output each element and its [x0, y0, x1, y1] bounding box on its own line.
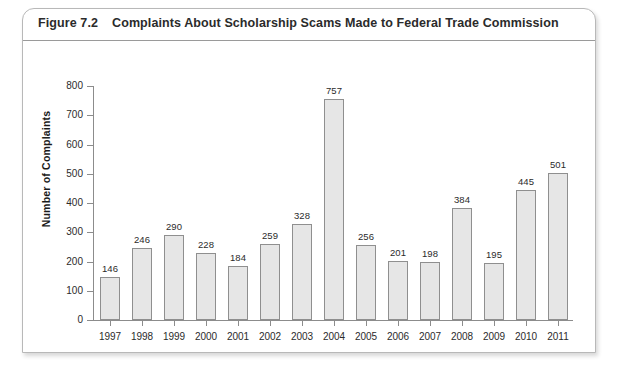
- bar-value-label: 246: [126, 234, 158, 245]
- bar: [356, 245, 376, 320]
- x-axis-tick: [366, 321, 367, 326]
- figure-frame: Figure 7.2Complaints About Scholarship S…: [22, 8, 596, 353]
- y-axis-title: Number of Complaints: [40, 99, 52, 239]
- figure-title: Complaints About Scholarship Scams Made …: [112, 16, 559, 30]
- bar-value-label: 757: [318, 85, 350, 96]
- x-axis-tick: [334, 321, 335, 326]
- y-axis-tick-label: 600: [53, 139, 83, 150]
- y-axis-tick: [87, 115, 93, 116]
- bar-value-label: 290: [158, 221, 190, 232]
- x-axis-line: [93, 320, 573, 321]
- x-axis-tick-label: 2008: [445, 331, 479, 342]
- x-axis-tick: [558, 321, 559, 326]
- x-axis-tick-label: 2002: [253, 331, 287, 342]
- y-axis-tick-label: 100: [53, 285, 83, 296]
- y-axis-tick: [87, 262, 93, 263]
- y-axis-tick: [87, 320, 93, 321]
- bar: [548, 173, 568, 320]
- y-axis-tick: [87, 232, 93, 233]
- x-axis-tick-label: 2010: [509, 331, 543, 342]
- x-axis-tick-label: 2003: [285, 331, 319, 342]
- bar: [420, 262, 440, 320]
- bar: [196, 253, 216, 320]
- figure-number: Figure 7.2: [38, 16, 98, 30]
- bar-value-label: 384: [446, 194, 478, 205]
- y-axis-tick-label: 200: [53, 256, 83, 267]
- x-axis-tick-label: 1998: [125, 331, 159, 342]
- bar-value-label: 195: [478, 249, 510, 260]
- bar: [132, 248, 152, 320]
- x-axis-tick: [206, 321, 207, 326]
- bar: [292, 224, 312, 320]
- bar: [484, 263, 504, 320]
- bar-chart-plot: Number of Complaints 0100200300400500600…: [23, 41, 595, 353]
- x-axis-tick: [238, 321, 239, 326]
- x-axis-tick-label: 2007: [413, 331, 447, 342]
- x-axis-tick-label: 2001: [221, 331, 255, 342]
- y-axis-tick-label: 500: [53, 168, 83, 179]
- y-axis-tick: [87, 174, 93, 175]
- figure-header: Figure 7.2Complaints About Scholarship S…: [23, 9, 595, 41]
- bar: [388, 261, 408, 320]
- x-axis-tick: [110, 321, 111, 326]
- bar: [228, 266, 248, 320]
- y-axis-tick: [87, 145, 93, 146]
- y-axis-tick-label: 700: [53, 109, 83, 120]
- y-axis-tick-label: 800: [53, 80, 83, 91]
- bar-value-label: 228: [190, 239, 222, 250]
- x-axis-tick-label: 2006: [381, 331, 415, 342]
- x-axis-tick-label: 1999: [157, 331, 191, 342]
- bar-value-label: 201: [382, 247, 414, 258]
- x-axis-tick: [398, 321, 399, 326]
- y-axis-tick: [87, 86, 93, 87]
- bar: [164, 235, 184, 320]
- bar: [100, 277, 120, 320]
- bar-value-label: 146: [94, 263, 126, 274]
- y-axis-line: [93, 86, 94, 321]
- x-axis-tick-label: 2004: [317, 331, 351, 342]
- y-axis-tick: [87, 291, 93, 292]
- x-axis-tick-label: 2011: [541, 331, 575, 342]
- x-axis-tick: [142, 321, 143, 326]
- x-axis-tick-label: 2005: [349, 331, 383, 342]
- x-axis-tick: [526, 321, 527, 326]
- y-axis-tick-label: 400: [53, 197, 83, 208]
- bar-value-label: 198: [414, 248, 446, 259]
- y-axis-tick: [87, 203, 93, 204]
- bar-value-label: 328: [286, 210, 318, 221]
- y-axis-tick-label: 0: [53, 314, 83, 325]
- bar-value-label: 184: [222, 252, 254, 263]
- y-axis-tick-label: 300: [53, 226, 83, 237]
- x-axis-tick: [174, 321, 175, 326]
- x-axis-tick-label: 2009: [477, 331, 511, 342]
- bar: [260, 244, 280, 320]
- bar-value-label: 445: [510, 176, 542, 187]
- bar-value-label: 256: [350, 231, 382, 242]
- bar: [452, 208, 472, 320]
- x-axis-tick-label: 2000: [189, 331, 223, 342]
- figure-caption: Figure 7.2Complaints About Scholarship S…: [38, 16, 559, 30]
- x-axis-tick: [462, 321, 463, 326]
- x-axis-tick: [270, 321, 271, 326]
- bar-value-label: 259: [254, 230, 286, 241]
- x-axis-tick: [494, 321, 495, 326]
- bar: [324, 99, 344, 320]
- x-axis-tick: [430, 321, 431, 326]
- x-axis-tick: [302, 321, 303, 326]
- bar-value-label: 501: [542, 159, 574, 170]
- bar: [516, 190, 536, 320]
- x-axis-tick-label: 1997: [93, 331, 127, 342]
